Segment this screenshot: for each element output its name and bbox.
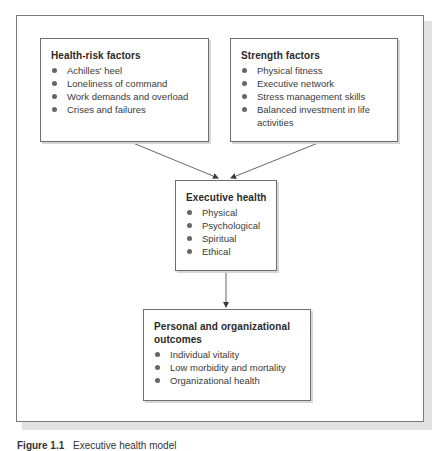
list-item: Individual vitality bbox=[154, 348, 302, 361]
bullet-icon bbox=[155, 378, 160, 383]
bullet-icon bbox=[52, 81, 57, 86]
bullet-icon bbox=[187, 249, 192, 254]
bullet-icon bbox=[52, 107, 57, 112]
box-list: Physical fitness Executive network Stres… bbox=[241, 64, 389, 129]
box-title: Health-risk factors bbox=[51, 49, 200, 62]
bullet-icon bbox=[187, 223, 192, 228]
bullet-icon bbox=[242, 107, 247, 112]
list-item: Organizational health bbox=[154, 374, 302, 387]
list-item: Loneliness of command bbox=[51, 77, 200, 90]
list-item: Physical fitness bbox=[241, 64, 389, 77]
list-item: Low morbidity and mortality bbox=[154, 361, 302, 374]
bullet-icon bbox=[155, 352, 160, 357]
box-list: Individual vitality Low morbidity and mo… bbox=[154, 348, 302, 387]
bullet-icon bbox=[52, 94, 57, 99]
box-title: Strength factors bbox=[241, 49, 389, 62]
figure-caption: Figure 1.1 Executive health model bbox=[17, 440, 176, 451]
list-item: Work demands and overload bbox=[51, 90, 200, 103]
list-item: Achilles' heel bbox=[51, 64, 200, 77]
bullet-icon bbox=[242, 68, 247, 73]
list-item: Stress management skills bbox=[241, 90, 389, 103]
list-item: Psychological bbox=[186, 219, 268, 232]
figure-caption-text: Executive health model bbox=[73, 440, 176, 451]
bullet-icon bbox=[242, 94, 247, 99]
outcomes-box: Personal and organizational outcomes Ind… bbox=[143, 309, 311, 401]
strength-factors-box: Strength factors Physical fitness Execut… bbox=[230, 38, 398, 142]
box-list: Physical Psychological Spiritual Ethical bbox=[186, 206, 268, 258]
figure-number: Figure 1.1 bbox=[17, 440, 64, 451]
bullet-icon bbox=[187, 210, 192, 215]
bullet-icon bbox=[52, 68, 57, 73]
executive-health-box: Executive health Physical Psychological … bbox=[175, 180, 277, 271]
bullet-icon bbox=[155, 365, 160, 370]
health-risk-factors-box: Health-risk factors Achilles' heel Lonel… bbox=[40, 38, 209, 142]
list-item: Balanced investment in life activities bbox=[241, 103, 389, 129]
box-title: Executive health bbox=[186, 191, 268, 204]
list-item: Executive network bbox=[241, 77, 389, 90]
box-title: Personal and organizational outcomes bbox=[154, 320, 302, 346]
list-item: Physical bbox=[186, 206, 268, 219]
list-item: Spiritual bbox=[186, 232, 268, 245]
list-item: Crises and failures bbox=[51, 103, 200, 116]
box-list: Achilles' heel Loneliness of command Wor… bbox=[51, 64, 200, 116]
bullet-icon bbox=[187, 236, 192, 241]
bullet-icon bbox=[242, 81, 247, 86]
list-item: Ethical bbox=[186, 245, 268, 258]
